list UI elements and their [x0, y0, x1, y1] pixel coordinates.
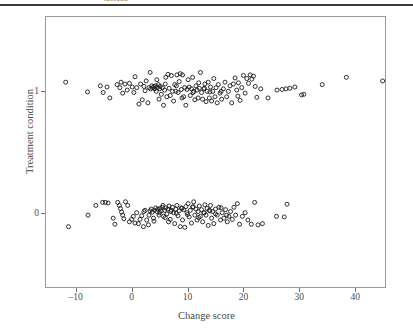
- x-tick-label: 10: [183, 292, 193, 302]
- header-rule: [0, 4, 413, 6]
- y-tick-mark: [41, 213, 45, 214]
- x-axis-label: Change score: [0, 310, 413, 321]
- figure-container: ipercon –10010203040 01 Treatment condit…: [0, 0, 413, 330]
- x-tick-label: 40: [351, 292, 361, 302]
- x-tick-label: 30: [295, 292, 305, 302]
- y-tick-mark: [41, 91, 45, 92]
- x-tick-label: 20: [239, 292, 249, 302]
- plot-frame: [45, 16, 386, 288]
- y-axis-label: Treatment condition: [24, 57, 35, 207]
- caption-remnant: ipercon: [104, 0, 150, 1]
- x-tick-label: –10: [69, 292, 83, 302]
- x-tick-label: 0: [129, 292, 134, 302]
- y-tick-label: 0: [31, 208, 39, 218]
